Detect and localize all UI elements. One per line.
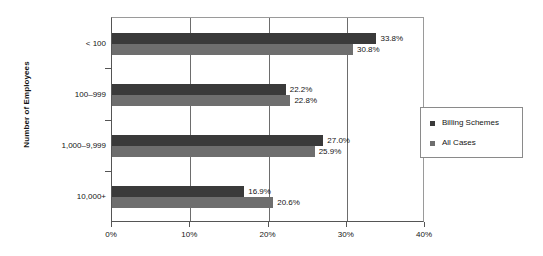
bar <box>112 197 273 208</box>
y-axis-tick <box>105 171 111 172</box>
x-axis-tick <box>346 222 347 227</box>
bar-value-label: 16.9% <box>248 186 271 197</box>
plot-area: 33.8%30.8%22.2%22.8%27.0%25.9%16.9%20.6% <box>111 17 424 222</box>
y-axis-tick <box>105 68 111 69</box>
x-axis-tick-label: 0% <box>105 230 117 239</box>
legend-item-label: Billing Schemes <box>442 117 499 129</box>
bar-value-label: 22.8% <box>294 95 317 106</box>
legend-swatch-icon <box>430 121 435 126</box>
legend-item-label: All Cases <box>442 137 476 149</box>
bar-value-label: 33.8% <box>380 33 403 44</box>
bar <box>112 186 244 197</box>
x-axis-tick <box>268 222 269 227</box>
legend-item-all-cases: All Cases <box>430 137 476 149</box>
legend-swatch-icon <box>430 141 435 146</box>
category-group: 33.8%30.8% <box>112 18 425 69</box>
bar-value-label: 27.0% <box>327 135 350 146</box>
bar-value-label: 30.8% <box>357 44 380 55</box>
x-axis-tick-label: 20% <box>259 230 275 239</box>
x-axis-tick-label: 10% <box>181 230 197 239</box>
bar-value-label: 25.9% <box>319 146 342 157</box>
x-axis-tick-label: 40% <box>416 230 432 239</box>
bar <box>112 44 353 55</box>
y-axis-category-label: 100–999 <box>75 89 106 98</box>
x-axis-tick <box>111 222 112 227</box>
y-axis-category-label: < 100 <box>86 38 106 47</box>
y-axis-tick <box>105 120 111 121</box>
bar-chart: Number of Employees 33.8%30.8%22.2%22.8%… <box>0 0 543 256</box>
bar <box>112 33 376 44</box>
legend-item-billing-schemes: Billing Schemes <box>430 117 499 129</box>
bar <box>112 84 286 95</box>
y-axis-category-label: 1,000–9,999 <box>62 141 107 150</box>
chart-legend: Billing Schemes All Cases <box>420 107 523 158</box>
y-axis-title: Number of Employees <box>22 35 31 175</box>
y-axis-category-label: 10,000+ <box>77 192 106 201</box>
bar <box>112 146 315 157</box>
category-group: 16.9%20.6% <box>112 172 425 223</box>
x-axis-tick-label: 30% <box>338 230 354 239</box>
bar-value-label: 20.6% <box>277 197 300 208</box>
x-axis-tick <box>424 222 425 227</box>
bar-value-label: 22.2% <box>290 84 313 95</box>
x-axis-tick <box>189 222 190 227</box>
bar <box>112 95 290 106</box>
bar <box>112 135 323 146</box>
category-group: 22.2%22.8% <box>112 69 425 120</box>
category-group: 27.0%25.9% <box>112 121 425 172</box>
